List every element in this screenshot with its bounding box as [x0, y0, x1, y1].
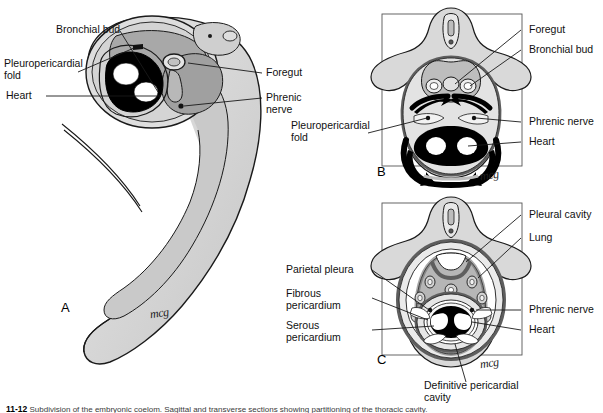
label-c-parietal-pleura: Parietal pleura — [286, 264, 354, 276]
label-c-definitive-pericardial-cavity: Definitive pericardial cavity — [424, 380, 519, 403]
artist-signature-c: mcg — [479, 355, 499, 372]
label-c-heart: Heart — [529, 324, 555, 336]
label-a-pleuropericardial-fold: Pleuropericardial fold — [4, 58, 83, 81]
label-c-fibrous-pericardium: Fibrous pericardium — [286, 288, 341, 311]
label-b-bronchial-bud: Bronchial bud — [529, 44, 593, 56]
figure-artwork — [0, 0, 603, 413]
artist-signature-b: mcg — [479, 167, 499, 184]
label-b-phrenic-nerve: Phrenic nerve — [529, 116, 594, 128]
label-a-phrenic-nerve: Phrenic nerve — [266, 92, 302, 115]
figure-caption-text: Subdivision of the embryonic coelom. Sag… — [30, 405, 428, 413]
panel-b-artwork — [368, 8, 531, 186]
figure-caption-number: 11-12 — [6, 404, 27, 413]
figure-caption: 11-12 Subdivision of the embryonic coelo… — [6, 404, 602, 413]
artist-signature-a: mcg — [149, 305, 169, 322]
label-c-pleural-cavity: Pleural cavity — [529, 209, 591, 221]
label-a-heart: Heart — [6, 90, 32, 102]
label-b-pleuropericardial-fold: Pleuropericardial fold — [291, 120, 370, 143]
panel-letter-c: C — [377, 352, 386, 367]
label-c-lung: Lung — [529, 232, 552, 244]
panel-letter-a: A — [61, 300, 70, 315]
panel-c-artwork — [371, 197, 531, 382]
label-a-foregut: Foregut — [266, 67, 302, 79]
label-a-bronchial-bud: Bronchial bud — [56, 24, 120, 36]
label-b-heart: Heart — [529, 136, 555, 148]
label-b-foregut: Foregut — [529, 24, 565, 36]
panel-letter-b: B — [377, 164, 386, 179]
label-c-serous-pericardium: Serous pericardium — [286, 320, 341, 343]
label-c-phrenic-nerve: Phrenic nerve — [529, 304, 594, 316]
